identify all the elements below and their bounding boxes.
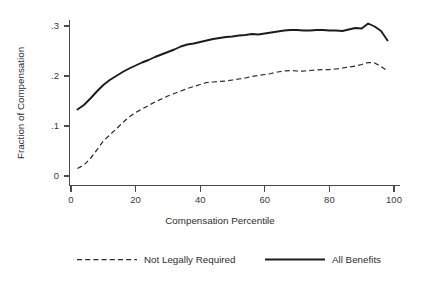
y-axis-title: Fraction of Compensation: [15, 47, 26, 159]
x-tick-label: 60: [260, 194, 271, 205]
x-tick-label: 100: [386, 194, 402, 205]
y-tick-label: .3: [51, 20, 59, 31]
x-tick-label: 20: [130, 194, 141, 205]
chart-legend: Not Legally Required All Benefits: [77, 254, 381, 265]
series-not-legally-required: [77, 63, 387, 169]
y-tick-label: 0: [54, 170, 59, 181]
x-tick-label: 80: [324, 194, 335, 205]
chart-canvas: 0.1.2.3 020406080100 Fraction of Compens…: [0, 0, 431, 281]
chart-figure: 0.1.2.3 020406080100 Fraction of Compens…: [0, 0, 431, 281]
x-tick-label: 0: [68, 194, 73, 205]
legend-label-not-legally-required: Not Legally Required: [144, 254, 236, 265]
series-all-benefits: [77, 24, 387, 110]
y-tick-label: .1: [51, 120, 59, 131]
x-axis-tick-labels: 020406080100: [68, 194, 402, 205]
legend-label-all-benefits: All Benefits: [332, 254, 381, 265]
x-tick-label: 40: [195, 194, 206, 205]
y-tick-label: .2: [51, 70, 59, 81]
x-axis-title: Compensation Percentile: [165, 215, 275, 226]
y-axis-ticks: [64, 26, 70, 176]
y-axis-tick-labels: 0.1.2.3: [51, 20, 59, 181]
x-axis-ticks: [71, 186, 394, 192]
